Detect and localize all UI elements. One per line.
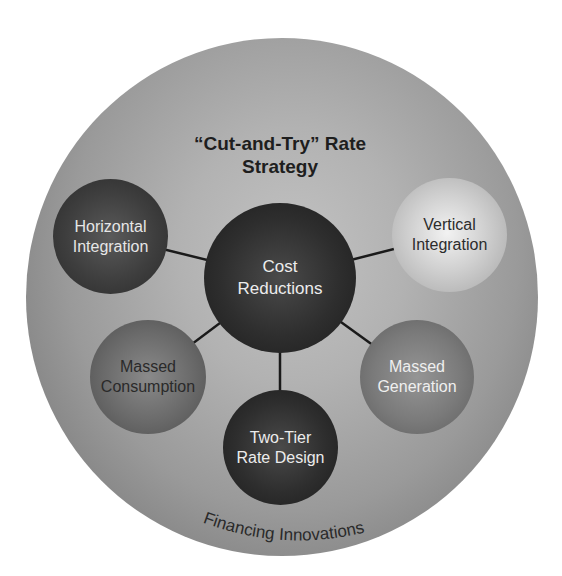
diagram-canvas: “Cut-and-Try” Rate Strategy Cost Reducti… [0,0,562,576]
outer-ring-label-arc: Financing Innovations [0,0,562,576]
outer-ring-label: Financing Innovations [201,508,366,544]
